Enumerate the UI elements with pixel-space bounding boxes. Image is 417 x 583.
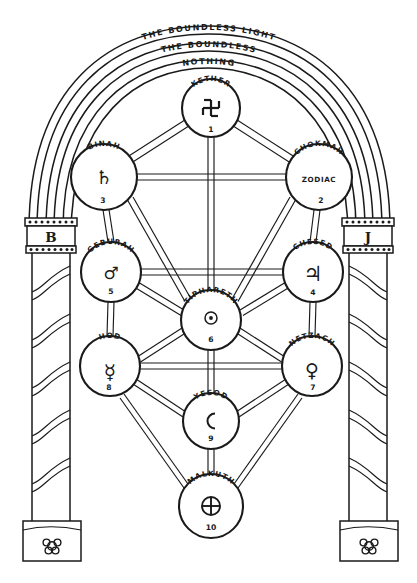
sefira-chesed[interactable]: CHESED ♃ 4	[283, 237, 343, 302]
pillar-jachin[interactable]: J	[340, 218, 398, 561]
sefira-binah[interactable]: BINAH ♄ 3	[71, 139, 137, 210]
chokmah-number: 2	[318, 196, 323, 205]
chokmah-subtitle: ZODIAC	[302, 175, 336, 184]
pillar-boaz[interactable]: B	[23, 218, 81, 561]
jupiter-icon: ♃	[304, 262, 323, 286]
path-kether-chokmah	[236, 120, 295, 158]
path-kether-binah	[127, 120, 186, 158]
sefira-chokmah[interactable]: CHOKMAH ZODIAC 2	[286, 139, 352, 210]
chesed-number: 4	[310, 288, 315, 297]
sefira-hod[interactable]: HOD ☿ 8	[80, 331, 140, 396]
mercury-icon: ☿	[104, 360, 116, 384]
tiphareth-number: 6	[208, 335, 213, 344]
venus-icon: ♀	[305, 359, 319, 381]
path-tiphareth-netzach	[240, 328, 285, 357]
binah-number: 3	[100, 196, 105, 205]
path-geburah-hod	[107, 302, 108, 336]
path-geburah-tiphareth	[138, 282, 184, 310]
pillar-label-boaz: B	[45, 229, 56, 245]
arc-label-middle: THE BOUNDLESS	[160, 39, 258, 55]
sefira-netzach[interactable]: NETZACH ♀ 7	[282, 331, 342, 396]
path-netzach-yesod	[236, 379, 286, 412]
jachin-capital-top-band	[342, 218, 394, 226]
earth-icon	[202, 497, 220, 515]
tree-of-life-diagram: THE BOUNDLESS LIGHT THE BOUNDLESS NOTHIN…	[0, 0, 417, 583]
path-tiphareth-hod	[137, 328, 182, 357]
sefira-geburah[interactable]: GEBURAH ♂ 5	[81, 237, 141, 302]
sefira-malkuth[interactable]: MALKUTH 10	[179, 469, 243, 538]
sefira-tiphareth[interactable]: TIPHARETH 6	[181, 285, 241, 350]
boaz-capital-top-band	[25, 218, 77, 226]
yesod-number: 9	[208, 434, 213, 443]
hod-number: 8	[106, 383, 111, 392]
malkuth-number: 10	[206, 523, 217, 532]
diagram-canvas: THE BOUNDLESS LIGHT THE BOUNDLESS NOTHIN…	[0, 0, 417, 583]
netzach-number: 7	[310, 383, 315, 392]
kether-number: 1	[208, 125, 213, 134]
sefira-kether[interactable]: KETHER 1	[182, 74, 240, 137]
geburah-number: 5	[108, 287, 113, 296]
arc-label-inner: NOTHING	[182, 56, 237, 68]
path-chesed-netzach	[309, 302, 310, 336]
saturn-icon: ♄	[95, 166, 112, 188]
mars-icon: ♂	[103, 263, 118, 283]
path-hod-yesod	[136, 379, 186, 412]
pillar-label-jachin: J	[364, 229, 371, 245]
sefira-yesod[interactable]: YESOD 9	[183, 388, 239, 449]
